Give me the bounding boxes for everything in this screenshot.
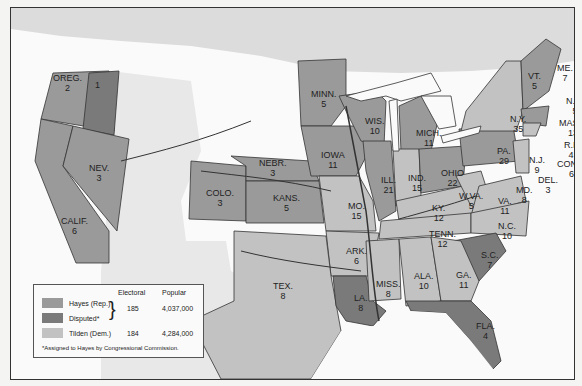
state-label-arkansas: ARK.6 bbox=[346, 246, 367, 266]
state-label-vermont: VT.5 bbox=[528, 71, 541, 91]
state-label-florida: FLA.4 bbox=[476, 321, 495, 341]
election-map: OREG.2 1 CALIF.6 NEV.3 COLO.3 NEBR.3 KAN… bbox=[10, 7, 575, 380]
state-label-pennsylvania: PA.29 bbox=[497, 146, 511, 166]
state-label-new-york: N.Y.35 bbox=[510, 114, 526, 134]
legend-footnote: *Assigned to Hayes by Congressional Comm… bbox=[42, 345, 179, 351]
legend-label-hayes: Hayes (Rep.) bbox=[69, 300, 110, 307]
state-label-kentucky: KY.12 bbox=[432, 203, 445, 223]
state-label-iowa: IOWA11 bbox=[321, 150, 345, 170]
state-label-colorado: COLO.3 bbox=[206, 188, 234, 208]
legend-swatch-hayes bbox=[42, 298, 63, 308]
legend-hayes-electoral: 185 bbox=[127, 305, 139, 312]
state-label-michigan: MICH.11 bbox=[416, 128, 442, 148]
state-label-new-jersey: N.J.9 bbox=[529, 155, 545, 175]
state-label-missouri: MO.15 bbox=[348, 201, 365, 221]
state-label-ohio: OHIO22 bbox=[441, 168, 464, 188]
state-label-new-hampshire: N.H.5 bbox=[566, 96, 575, 116]
legend-header-popular: Popular bbox=[162, 289, 186, 296]
legend-swatch-disputed bbox=[42, 313, 63, 323]
state-label-tennessee: TENN.12 bbox=[429, 229, 456, 249]
legend-tilden-popular: 4,284,000 bbox=[162, 330, 193, 337]
state-label-oregon-disputed: 1 bbox=[95, 80, 100, 90]
state-label-north-carolina: N.C.10 bbox=[498, 221, 516, 241]
state-label-massachusetts: MASS.13 bbox=[559, 118, 575, 138]
legend-tilden-electoral: 184 bbox=[127, 330, 139, 337]
state-label-nebraska: NEBR.3 bbox=[259, 158, 287, 178]
state-label-minnesota: MINN.5 bbox=[311, 89, 337, 109]
legend-brace: } bbox=[109, 299, 116, 319]
state-label-illinois: ILL.21 bbox=[381, 175, 396, 195]
legend-label-disputed: Disputed* bbox=[69, 315, 99, 322]
state-label-alabama: ALA.10 bbox=[414, 271, 434, 291]
legend-hayes-popular: 4,037,000 bbox=[162, 305, 193, 312]
state-label-maryland: MD.8 bbox=[516, 185, 533, 205]
state-label-connecticut: CONN.6 bbox=[557, 159, 575, 179]
map-legend: Electoral Popular Hayes (Rep.) Disputed*… bbox=[33, 284, 204, 358]
state-label-west-virginia: W.VA.5 bbox=[459, 191, 483, 211]
state-label-oregon: OREG.2 bbox=[53, 73, 82, 93]
canada-region bbox=[11, 8, 574, 73]
state-label-indiana: IND.15 bbox=[408, 173, 426, 193]
legend-header-electoral: Electoral bbox=[118, 289, 145, 296]
state-label-wisconsin: WIS.10 bbox=[365, 116, 385, 136]
state-label-mississippi: MISS.8 bbox=[376, 279, 401, 299]
state-label-texas: TEX.8 bbox=[273, 281, 293, 301]
state-label-south-carolina: S.C.7 bbox=[481, 250, 499, 270]
state-label-california: CALIF.6 bbox=[61, 216, 88, 236]
state-label-virginia: VA.11 bbox=[498, 196, 512, 216]
legend-swatch-tilden bbox=[42, 328, 63, 338]
state-label-louisiana: LA.8 bbox=[354, 293, 368, 313]
state-label-georgia: GA.11 bbox=[456, 270, 472, 290]
state-label-maine: ME.7 bbox=[557, 63, 573, 83]
state-label-rhode-island: R.I.4 bbox=[564, 140, 575, 160]
legend-label-tilden: Tilden (Dem.) bbox=[69, 330, 111, 337]
state-label-delaware: DEL.3 bbox=[538, 175, 558, 195]
state-label-nevada: NEV.3 bbox=[89, 163, 109, 183]
state-label-kansas: KANS.5 bbox=[273, 193, 300, 213]
